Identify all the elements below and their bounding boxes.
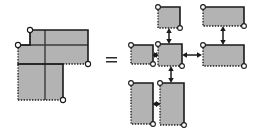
arrow-head-right <box>197 52 202 57</box>
node-fill <box>160 83 184 125</box>
left-panel-polygon <box>15 27 90 102</box>
node-mid-left <box>129 43 156 67</box>
node-dot-bottom-right <box>242 24 247 29</box>
relation-equals-symbol <box>106 57 117 63</box>
node-dot-top-left <box>129 81 134 86</box>
node-dot-top-left <box>201 5 206 10</box>
node-dot-bottom-right <box>242 64 247 69</box>
figure-root: Rectilinear polygon decomposition equals… <box>0 0 259 134</box>
edge-top-center-to-center <box>166 28 171 44</box>
edge-top-right-to-mid-right <box>220 26 225 45</box>
node-fill <box>131 45 153 64</box>
polygon-body-fill <box>18 30 88 100</box>
node-fill <box>203 7 244 26</box>
node-dot-top-left <box>156 5 161 10</box>
dot-left-notch <box>15 42 20 47</box>
equals-bar-lower <box>106 61 117 63</box>
node-dot-top-left <box>129 43 134 48</box>
right-panel-graph <box>129 5 247 128</box>
node-dot-bottom-right <box>180 64 185 69</box>
node-dot-top-left <box>158 81 163 86</box>
dot-bottom-right <box>60 97 65 102</box>
node-top-right <box>201 5 247 29</box>
dot-top-left <box>27 27 32 32</box>
equals-bar-upper <box>106 57 117 59</box>
node-dot-top-left <box>201 43 206 48</box>
arrow-head-up <box>220 26 225 31</box>
edge-center-to-bottom-center <box>168 66 173 83</box>
node-bottom-center <box>158 81 187 128</box>
arrow-head-up <box>168 66 173 71</box>
node-dot-bottom-right <box>151 62 156 67</box>
node-dot-bottom-right <box>178 26 183 31</box>
node-center <box>156 42 185 69</box>
edge-center-to-mid-right <box>182 52 202 57</box>
node-fill <box>131 83 153 124</box>
node-fill <box>203 45 244 66</box>
arrow-head-up <box>166 28 171 33</box>
node-dot-bottom-right <box>182 123 187 128</box>
node-dot-top-left <box>156 42 161 47</box>
node-bottom-left <box>129 81 156 127</box>
node-fill <box>158 44 182 66</box>
node-fill <box>158 7 180 28</box>
dot-right-bottom <box>85 61 90 66</box>
node-dot-bottom-right <box>151 122 156 127</box>
node-top-center <box>156 5 183 31</box>
figure-canvas: Rectilinear polygon decomposition equals… <box>0 0 259 134</box>
graph-nodes <box>129 5 247 128</box>
node-mid-right <box>201 43 247 69</box>
